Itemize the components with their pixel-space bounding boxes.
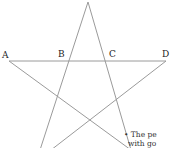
caption-note: • The pe with go xyxy=(124,130,157,148)
caption-line-1: • The pe xyxy=(124,130,157,139)
label-C: C xyxy=(109,50,116,59)
line-apex-left xyxy=(40,2,88,148)
pentagram-figure xyxy=(0,0,174,148)
caption-line-2: with go xyxy=(124,139,157,148)
line-apex-right xyxy=(88,2,131,148)
label-B: B xyxy=(58,50,65,59)
label-A: A xyxy=(2,51,9,60)
label-D: D xyxy=(162,50,169,59)
